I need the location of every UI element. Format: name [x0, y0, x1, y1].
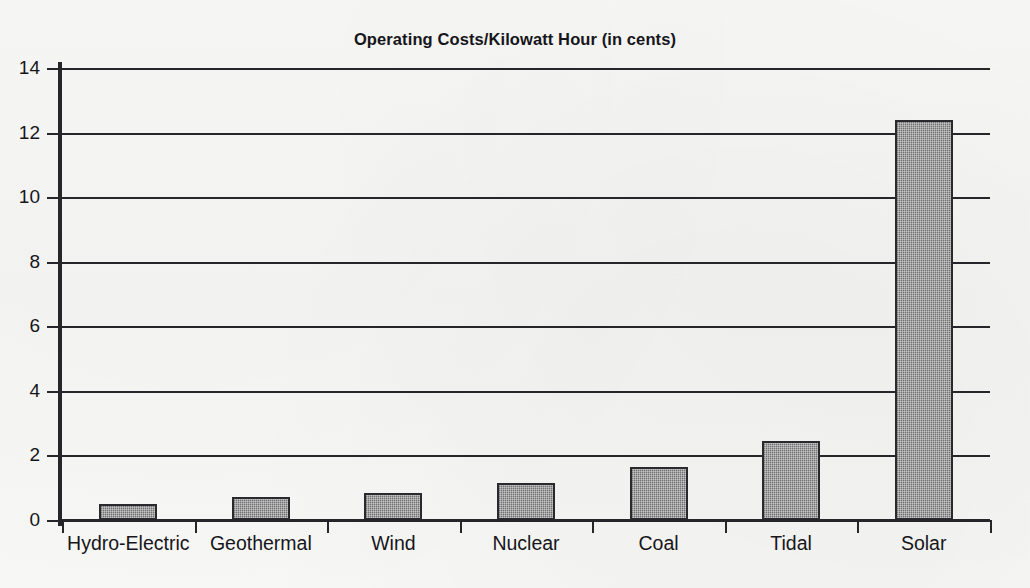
x-axis-category-label: Coal — [592, 533, 725, 554]
bar — [99, 504, 157, 520]
y-axis-tick-label: 4 — [0, 381, 40, 400]
y-axis-tick-label: 12 — [0, 123, 40, 142]
x-axis-category-label: Wind — [327, 533, 460, 554]
bar — [762, 441, 820, 520]
gridline — [62, 133, 990, 135]
y-axis-tick-label: 14 — [0, 58, 40, 77]
y-axis-tick-mark — [47, 197, 60, 199]
y-axis-tick-mark — [47, 391, 60, 393]
bar — [232, 497, 290, 520]
y-axis-tick-label: 2 — [0, 445, 40, 464]
x-axis-tick-mark — [460, 520, 462, 533]
x-axis-category-label: Nuclear — [460, 533, 593, 554]
y-axis-tick-mark — [47, 68, 60, 70]
bar — [630, 467, 688, 520]
x-axis-tick-mark — [327, 520, 329, 533]
y-axis-tick-mark — [47, 520, 60, 522]
x-axis-category-label: Hydro-Electric — [62, 533, 195, 554]
x-axis-category-label: Tidal — [725, 533, 858, 554]
x-axis-tick-mark — [62, 520, 64, 533]
gridline — [62, 262, 990, 264]
x-axis-tick-mark — [195, 520, 197, 533]
bar — [364, 493, 422, 520]
x-axis-tick-mark — [990, 520, 992, 533]
bar — [895, 120, 953, 520]
y-axis-tick-mark — [47, 133, 60, 135]
x-axis-line — [62, 519, 990, 522]
y-axis-tick-mark — [47, 262, 60, 264]
gridline — [62, 391, 990, 393]
y-axis-tick-label: 8 — [0, 252, 40, 271]
gridline — [62, 197, 990, 199]
y-axis-tick-label: 0 — [0, 510, 40, 529]
bar — [497, 483, 555, 520]
x-axis-category-label: Solar — [857, 533, 990, 554]
x-axis-tick-mark — [592, 520, 594, 533]
bar-chart-figure: Operating Costs/Kilowatt Hour (in cents)… — [0, 0, 1030, 588]
chart-title: Operating Costs/Kilowatt Hour (in cents) — [0, 30, 1030, 49]
plot-area — [62, 68, 990, 520]
y-axis-tick-mark — [47, 326, 60, 328]
y-axis-tick-label: 10 — [0, 187, 40, 206]
gridline — [62, 455, 990, 457]
y-axis-tick-mark — [47, 455, 60, 457]
x-axis-tick-mark — [857, 520, 859, 533]
x-axis-category-label: Geothermal — [195, 533, 328, 554]
y-axis-tick-label: 6 — [0, 316, 40, 335]
gridline — [62, 68, 990, 70]
gridline — [62, 326, 990, 328]
x-axis-tick-mark — [725, 520, 727, 533]
